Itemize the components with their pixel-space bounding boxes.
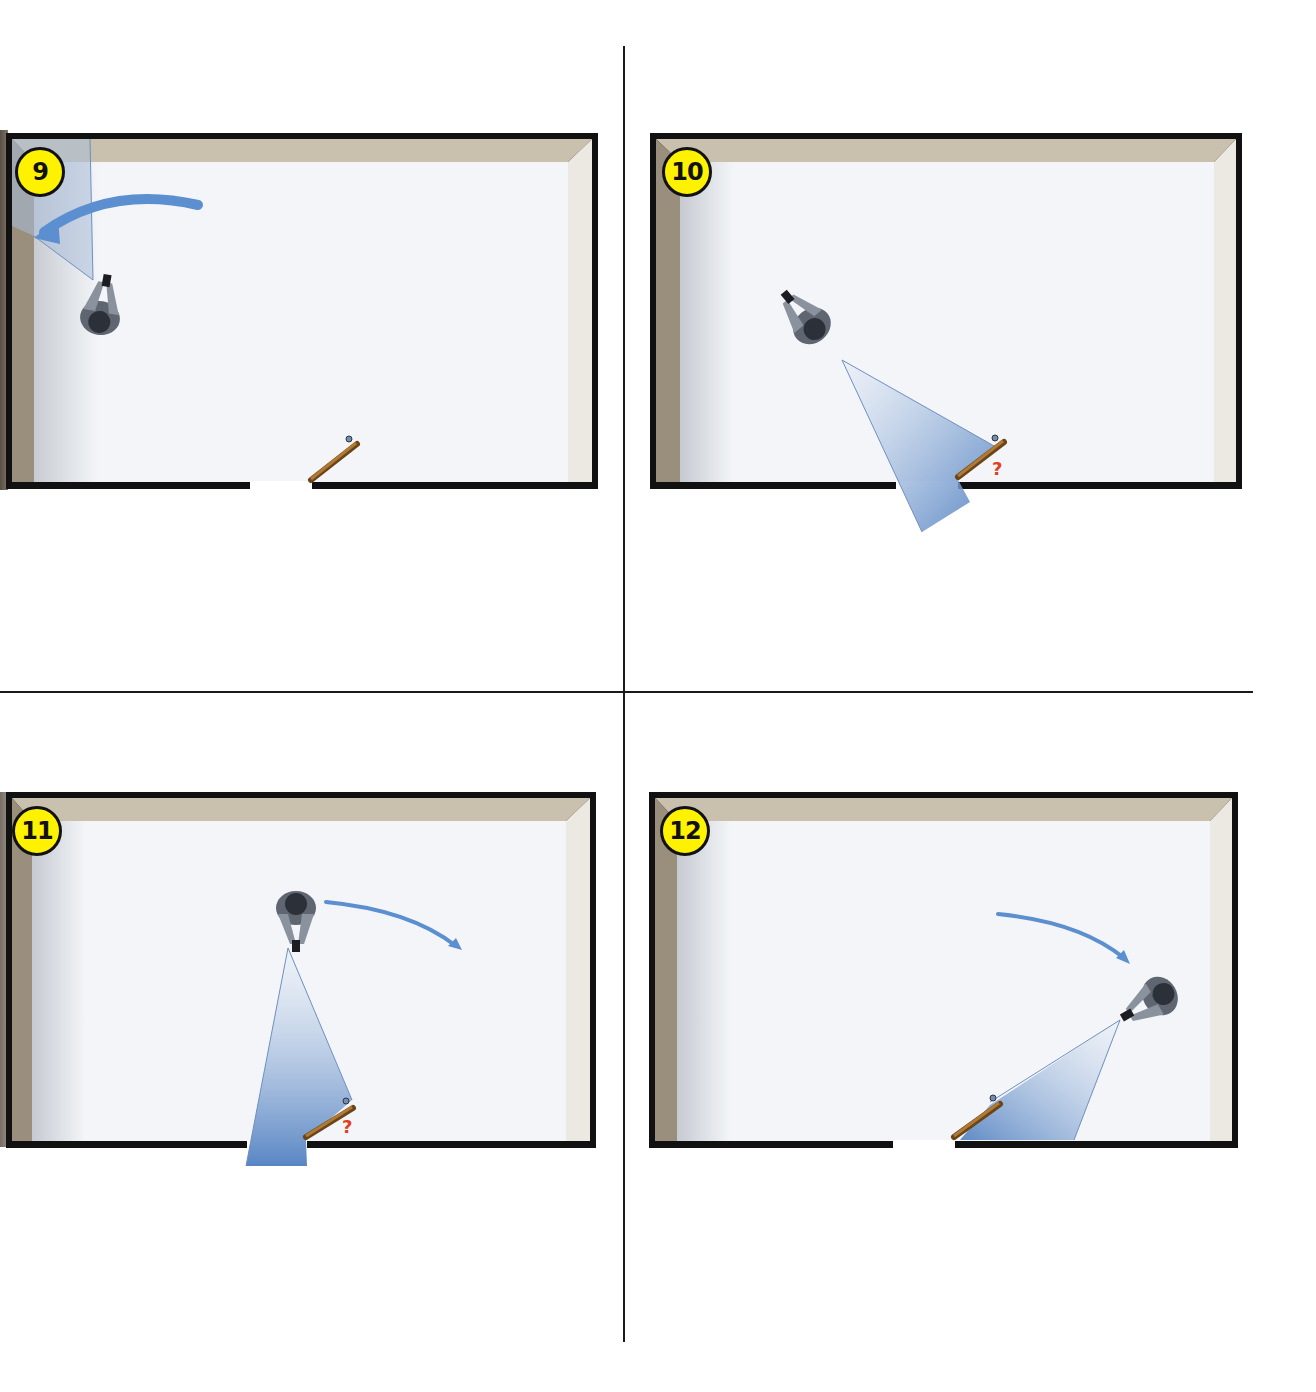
step-badge-9: 9: [15, 147, 65, 197]
panel-step-10: 10 ?: [640, 0, 1260, 690]
question-mark: ?: [342, 1116, 352, 1137]
room-diagram-12: [640, 700, 1260, 1390]
panel-step-11: 11 ?: [0, 700, 620, 1390]
panel-step-9: 9: [0, 0, 620, 690]
step-badge-10: 10: [662, 147, 712, 197]
room-diagram-11: [0, 700, 620, 1390]
room-diagram-10: [640, 0, 1260, 690]
horizontal-divider: [0, 691, 1253, 693]
step-badge-11: 11: [12, 806, 62, 856]
step-badge-12: 12: [660, 806, 710, 856]
room-diagram-9: [0, 0, 620, 690]
vertical-divider: [623, 46, 625, 1342]
panel-step-12: 12: [640, 700, 1260, 1390]
question-mark: ?: [992, 458, 1002, 479]
